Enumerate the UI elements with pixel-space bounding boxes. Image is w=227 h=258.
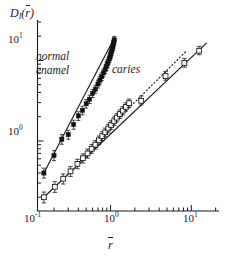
x-tick-mantissa-2: 10: [183, 212, 194, 224]
series-caries-marker: [182, 61, 187, 66]
annotation-caries: caries: [112, 63, 140, 75]
y-axis-label-paren-close: ): [30, 6, 34, 20]
x-axis-label: r: [108, 238, 113, 253]
series-caries-marker: [197, 48, 202, 53]
series-normal-enamel-marker: [66, 132, 70, 136]
series-normal-enamel-marker: [52, 153, 56, 157]
series-normal-enamel-marker: [76, 114, 80, 118]
series-caries-marker: [68, 169, 73, 174]
annotation-normal-enamel-line1: normal: [36, 50, 69, 64]
x-axis-label-text: r: [108, 238, 113, 253]
y-axis-label: DI(r): [10, 6, 34, 21]
series-caries-marker: [42, 195, 47, 200]
series-caries-marker: [139, 98, 144, 103]
caries-dotted-guide-line: [126, 52, 186, 111]
series-caries-marker: [75, 161, 80, 166]
figure-log-log-plot: DI(r) r normal enamel caries 10-1 100 10…: [0, 0, 227, 258]
y-axis-label-main: D: [10, 6, 19, 20]
x-tick-label-1: 100: [104, 212, 119, 224]
series-caries-marker: [52, 184, 57, 189]
series-caries-marker: [80, 156, 85, 161]
series-normal-enamel-marker: [60, 137, 64, 141]
y-tick-label-0: 100: [8, 125, 23, 137]
x-tick-exponent-1: 0: [115, 210, 119, 219]
y-axis-label-argument: r: [25, 6, 30, 21]
y-tick-label-1: 101: [8, 33, 23, 45]
series-normal-enamel-marker: [80, 108, 84, 112]
x-tick-exponent-2: 1: [194, 210, 198, 219]
x-tick-mantissa-0: 10: [24, 212, 35, 224]
series-normal-enamel-marker: [112, 38, 116, 42]
series-caries-marker: [163, 74, 168, 79]
y-tick-mantissa-1: 10: [8, 33, 19, 45]
x-tick-exponent-0: -1: [35, 210, 41, 219]
series-normal-enamel-marker: [42, 171, 46, 175]
x-tick-label-0: 10-1: [24, 212, 41, 224]
y-tick-mantissa-0: 10: [8, 125, 19, 137]
x-tick-mantissa-1: 10: [104, 212, 115, 224]
annotation-normal-enamel: normal enamel: [36, 50, 69, 77]
series-caries-marker: [127, 101, 132, 106]
x-tick-label-2: 101: [183, 212, 198, 224]
series-caries-marker: [61, 176, 66, 181]
y-tick-exponent-0: 0: [19, 123, 23, 132]
series-caries-marker: [85, 151, 90, 156]
y-tick-exponent-1: 1: [19, 31, 23, 40]
series-normal-enamel-marker: [72, 122, 76, 126]
annotation-normal-enamel-line2: enamel: [36, 64, 69, 78]
